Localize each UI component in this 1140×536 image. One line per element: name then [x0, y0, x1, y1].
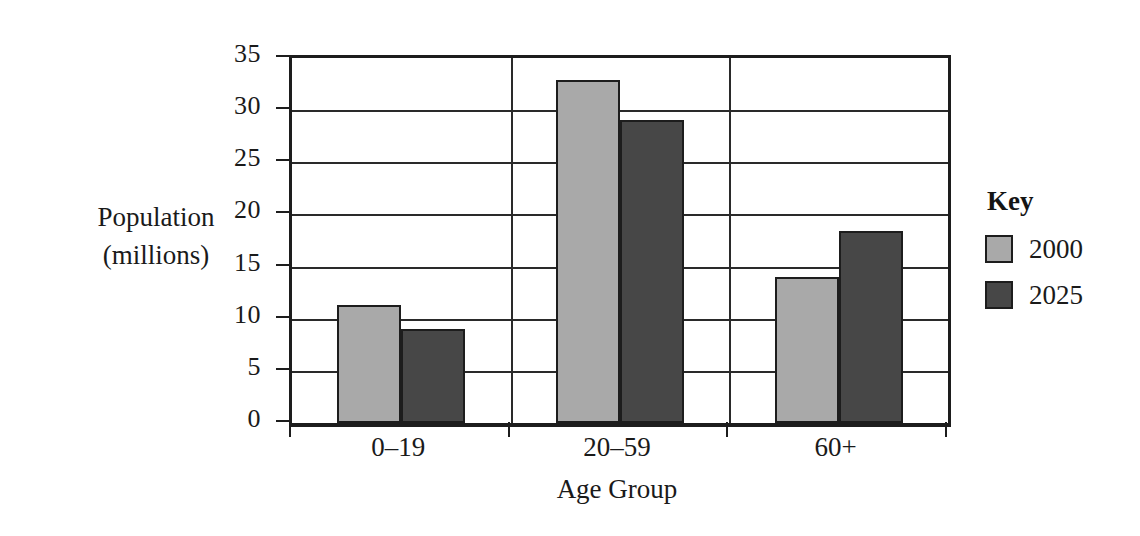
- y-tick-label: 35: [31, 41, 261, 67]
- legend-item-label: 2000: [1029, 236, 1083, 263]
- legend-rows: 20002025: [985, 235, 1135, 309]
- y-tick-label: 5: [31, 354, 261, 380]
- bar-2000-0–19: [337, 305, 401, 423]
- bar-chart: Population (millions) 05101520253035 0–1…: [0, 0, 1140, 536]
- y-tick-mark: [276, 211, 289, 213]
- category-divider: [511, 58, 513, 423]
- y-tick-mark: [276, 316, 289, 318]
- x-category-label: 20–59: [508, 432, 727, 463]
- y-tick-mark: [276, 420, 289, 422]
- bar-2025-20–59: [620, 120, 684, 423]
- plot-area: [289, 55, 951, 427]
- legend-item-label: 2025: [1029, 282, 1083, 309]
- y-tick-label: 0: [31, 406, 261, 432]
- bar-2025-60+: [839, 231, 903, 423]
- y-tick-label: 10: [31, 302, 261, 328]
- bar-2000-60+: [775, 277, 839, 423]
- y-tick-label: 30: [31, 93, 261, 119]
- x-tick-mark: [945, 422, 947, 437]
- y-tick-label: 15: [31, 250, 261, 276]
- legend-item-2025: 2025: [985, 281, 1135, 309]
- x-axis-title: Age Group: [289, 474, 945, 505]
- y-tick-label: 25: [31, 145, 261, 171]
- y-tick-mark: [276, 107, 289, 109]
- y-tick-mark: [276, 55, 289, 57]
- x-category-label: 60+: [726, 432, 945, 463]
- legend: Key 20002025: [985, 186, 1135, 327]
- category-divider: [729, 58, 731, 423]
- gridline: [292, 110, 948, 112]
- legend-item-2000: 2000: [985, 235, 1135, 263]
- bar-2025-0–19: [401, 329, 465, 423]
- legend-swatch-icon: [985, 281, 1013, 309]
- y-tick-mark: [276, 368, 289, 370]
- x-category-label: 0–19: [289, 432, 508, 463]
- y-tick-mark: [276, 264, 289, 266]
- legend-title: Key: [987, 186, 1135, 217]
- bar-2000-20–59: [556, 80, 620, 423]
- y-tick-mark: [276, 159, 289, 161]
- y-tick-label: 20: [31, 197, 261, 223]
- legend-swatch-icon: [985, 235, 1013, 263]
